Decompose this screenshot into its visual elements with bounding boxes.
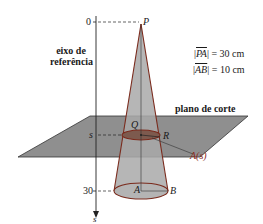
cone-cross-section-diagram: eixo de referência 0 P |PA| = 30 cm |AB|… <box>0 0 263 224</box>
point-Q-dot <box>140 134 142 136</box>
measure-AB: |AB| = 10 cm <box>193 64 245 75</box>
point-label-A: A <box>134 184 140 195</box>
tick-label-zero: 0 <box>86 16 91 27</box>
point-label-P: P <box>143 16 149 27</box>
measure-PA: |PA| = 30 cm <box>194 48 244 59</box>
area-label: A(s) <box>190 150 207 161</box>
axis-variable-label: s <box>93 214 97 224</box>
segment-PA: PA <box>196 48 207 59</box>
tick-label-thirty: 30 <box>83 185 93 196</box>
axis-label: eixo de referência <box>50 45 92 67</box>
segment-AB: AB <box>195 64 207 75</box>
point-label-B: B <box>170 185 176 196</box>
axis-label-line1: eixo de <box>50 45 92 56</box>
point-label-Q: Q <box>131 119 138 130</box>
axis-label-line2: referência <box>50 56 92 67</box>
measure-PA-value: = 30 cm <box>211 48 244 59</box>
point-label-R: R <box>163 130 169 141</box>
tick-label-s: s <box>89 129 93 140</box>
plane-label: plano de corte <box>175 103 236 114</box>
measure-AB-value: = 10 cm <box>212 64 245 75</box>
